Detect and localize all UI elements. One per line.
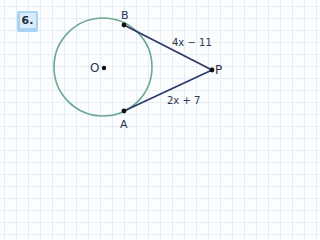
label-b: B	[121, 9, 129, 22]
label-p: P	[215, 63, 222, 77]
point-b	[122, 23, 127, 28]
point-a	[122, 109, 127, 114]
tangent-circle-figure: O B A P 4x − 11 2x + 7	[0, 0, 237, 134]
center-point-o	[102, 66, 106, 70]
label-bp-length: 4x − 11	[172, 37, 212, 48]
label-a: A	[120, 118, 128, 131]
label-ap-length: 2x + 7	[167, 95, 200, 106]
label-o: O	[90, 61, 99, 75]
point-p	[210, 68, 215, 73]
